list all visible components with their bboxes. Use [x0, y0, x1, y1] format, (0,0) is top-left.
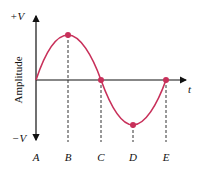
- point-d-trough: [130, 122, 136, 128]
- point-label-b: B: [65, 151, 72, 163]
- y-axis-label: Amplitude: [12, 56, 24, 103]
- y-top-label: +V: [10, 10, 25, 22]
- point-e-zero: [163, 77, 169, 83]
- point-b-peak: [65, 32, 71, 38]
- x-axis-label: t: [188, 83, 192, 95]
- point-label-a: A: [32, 151, 40, 163]
- point-label-e: E: [162, 151, 170, 163]
- point-c-zero: [98, 77, 104, 83]
- point-label-d: D: [128, 151, 137, 163]
- y-bottom-label: −V: [12, 132, 27, 144]
- point-label-c: C: [97, 151, 105, 163]
- sine-wave-diagram: +V −V t Amplitude A B C D E: [0, 0, 204, 171]
